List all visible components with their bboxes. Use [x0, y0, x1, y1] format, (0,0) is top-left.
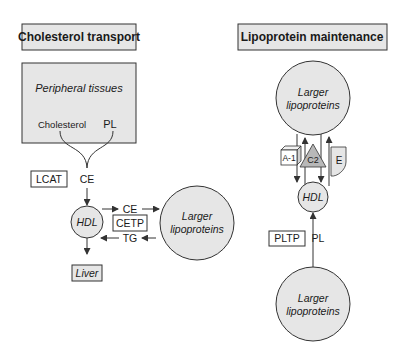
bottom-circle-label-2: lipoproteins	[286, 305, 340, 317]
peripheral-tissues-label: Peripheral tissues	[35, 82, 123, 94]
apo-c2-label: C2	[307, 155, 319, 165]
ce-label-right: CE	[123, 203, 138, 215]
cholesterol-transport-title: Cholesterol transport	[18, 30, 140, 44]
larger-lipoproteins-label-left-2: lipoproteins	[170, 223, 224, 235]
apo-e-label: E	[336, 155, 343, 166]
liver-label: Liver	[76, 267, 99, 279]
cholesterol-transport-panel: Cholesterol transport Peripheral tissues…	[18, 24, 234, 281]
cetp-label: CETP	[116, 217, 144, 229]
larger-lipoproteins-circle-top	[276, 61, 350, 135]
lcat-label: LCAT	[36, 173, 63, 185]
tg-label: TG	[123, 232, 138, 244]
lipoprotein-maintenance-panel: Lipoprotein maintenance Larger lipoprote…	[238, 24, 387, 341]
cholesterol-label: Cholesterol	[38, 119, 86, 130]
top-circle-label-1: Larger	[298, 86, 329, 98]
apo-a1-label: A-1	[282, 153, 296, 163]
peripheral-tissues-box	[22, 63, 136, 143]
pltp-label: PLTP	[274, 232, 299, 244]
pl-label-right: PL	[312, 232, 325, 244]
ce-label-top: CE	[80, 173, 95, 185]
lipoprotein-maintenance-title: Lipoprotein maintenance	[241, 30, 384, 44]
hdl-label-left: HDL	[76, 216, 97, 228]
larger-lipoproteins-circle-bottom	[276, 267, 350, 341]
hdl-label-right: HDL	[302, 191, 323, 203]
top-circle-label-2: lipoproteins	[286, 99, 340, 111]
larger-lipoproteins-label-left-1: Larger	[182, 210, 213, 222]
bottom-circle-label-1: Larger	[298, 292, 329, 304]
pl-label-left: PL	[103, 118, 116, 130]
apo-a1-cube: A-1	[281, 146, 301, 165]
